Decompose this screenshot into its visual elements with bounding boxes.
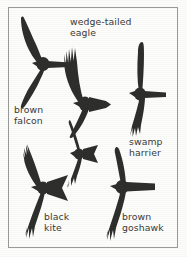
label-swamp-harrier: swamp harrier bbox=[129, 137, 163, 158]
label-wedge-tailed-eagle: wedge-tailed eagle bbox=[70, 17, 132, 38]
label-brown-falcon: brown falcon bbox=[14, 105, 43, 126]
label-brown-goshawk: brown goshawk bbox=[122, 212, 164, 233]
label-black-kite: black kite bbox=[44, 212, 69, 233]
raptor-silhouette-plate: brown falcon wedge-tailed eagle bbox=[0, 0, 187, 257]
bird-silhouette-swamp-harrier bbox=[118, 40, 178, 138]
